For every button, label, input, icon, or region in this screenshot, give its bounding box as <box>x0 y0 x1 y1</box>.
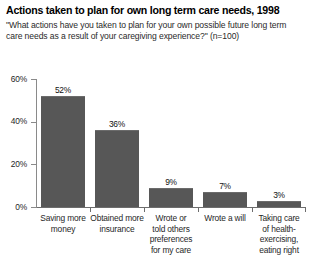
chart-subtitle: "What actions have you taken to plan for… <box>6 20 298 42</box>
y-tick-label: 60% <box>11 74 27 84</box>
x-tick <box>198 208 199 212</box>
y-tick-20: 20% <box>31 164 37 165</box>
y-axis-line <box>36 79 37 208</box>
bar-value-label: 7% <box>219 181 231 191</box>
chart-figure: Actions taken to plan for own long term … <box>0 0 312 272</box>
y-tick-label: 40% <box>11 116 27 126</box>
y-tick-label: 0% <box>15 202 27 212</box>
bar-value-label: 52% <box>55 85 71 95</box>
y-tick-0: 0% <box>31 207 37 208</box>
page-title: Actions taken to plan for own long term … <box>6 4 308 16</box>
bar-value-label: 9% <box>165 177 177 187</box>
bar-value-label: 3% <box>273 190 285 200</box>
bar: 52% <box>41 96 84 207</box>
bar: 36% <box>95 130 138 207</box>
x-tick <box>90 208 91 212</box>
bar: 7% <box>203 192 246 207</box>
y-tick-60: 60% <box>31 79 37 80</box>
category-label: Wrote ortold otherspreferencesfor my car… <box>144 213 198 255</box>
category-label: Wrote a will <box>198 213 252 224</box>
bar: 9% <box>149 188 192 207</box>
x-tick <box>305 208 306 212</box>
category-label: Saving moremoney <box>36 213 90 234</box>
category-label: Taking careof health-exercising,eating r… <box>252 213 306 255</box>
bar: 3% <box>257 201 300 207</box>
y-tick-40: 40% <box>31 122 37 123</box>
plot-area: 0%20%40%60% 52%36%9%7%3% <box>36 79 306 207</box>
y-tick-label: 20% <box>11 159 27 169</box>
category-label: Obtained moreinsurance <box>90 213 144 234</box>
x-axis-line <box>36 207 306 208</box>
x-tick <box>144 208 145 212</box>
bar-value-label: 36% <box>109 119 125 129</box>
x-tick <box>252 208 253 212</box>
